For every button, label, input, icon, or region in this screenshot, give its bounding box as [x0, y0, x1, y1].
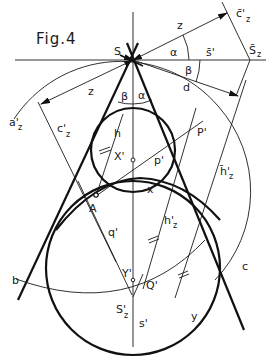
figure-4-diagram: Fig.4 [0, 0, 273, 359]
label-s-bar-z: S̄ [249, 44, 256, 57]
label-c: c [242, 260, 248, 273]
cone-line-b [18, 43, 138, 300]
label-h: h [114, 127, 121, 140]
label-p-prime: P' [197, 126, 207, 139]
label-z-top: z [177, 19, 183, 32]
beta-arc-top [196, 60, 200, 82]
svg-text:z: z [66, 130, 70, 139]
label-beta-low: β [121, 90, 128, 103]
svg-text:z: z [173, 221, 177, 230]
svg-text:z: z [257, 50, 261, 59]
svg-text:z: z [124, 311, 128, 320]
svg-text:z: z [246, 15, 250, 24]
label-q-prime: Q' [146, 279, 158, 292]
figure-title: Fig.4 [36, 30, 77, 48]
label-q: q' [108, 226, 118, 239]
alpha-arc-top [183, 35, 189, 60]
parallel-ticks [99, 147, 189, 278]
label-x-prime: X' [114, 150, 125, 163]
label-alpha-top: α [170, 46, 177, 59]
svg-text:z: z [229, 172, 233, 181]
label-c-bar-z: c̄' [236, 7, 245, 20]
label-a: A [89, 202, 97, 215]
label-s: S [114, 45, 121, 58]
label-s-prime: s' [139, 317, 148, 330]
svg-text:z: z [18, 123, 22, 132]
h-z-line [143, 108, 196, 289]
label-s-bar: s̄' [206, 46, 215, 59]
label-d: d [183, 81, 190, 94]
label-y-prime: Y' [121, 267, 132, 280]
sz-q-line [133, 274, 143, 297]
label-z-left: z [88, 85, 94, 98]
label-x: x [147, 183, 154, 196]
label-c-z: c' [57, 122, 66, 135]
label-beta-top: β [185, 64, 192, 77]
q-arc [16, 240, 205, 293]
label-b: b [12, 274, 19, 287]
point-x [131, 158, 135, 162]
point-a [94, 193, 98, 197]
label-y: y [191, 310, 198, 323]
label-p: p' [154, 154, 164, 167]
label-alpha-low: α [138, 89, 145, 102]
